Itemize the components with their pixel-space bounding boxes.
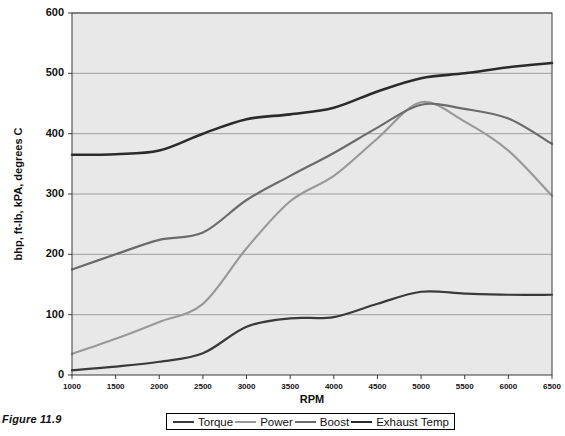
y-tick-label: 0 bbox=[58, 368, 64, 380]
y-tick-label: 300 bbox=[46, 187, 64, 199]
legend-label: Exhaust Temp bbox=[376, 416, 449, 428]
chart-figure: 0100200300400500600 10001500200025003000… bbox=[0, 0, 565, 436]
y-tick-label: 200 bbox=[46, 247, 64, 259]
legend-label: Boost bbox=[320, 416, 349, 428]
y-tick-label: 400 bbox=[46, 127, 64, 139]
y-tick-label: 500 bbox=[46, 66, 64, 78]
chart-svg: 0100200300400500600 10001500200025003000… bbox=[0, 0, 565, 436]
figure-caption: Figure 11.9 bbox=[2, 413, 61, 425]
x-tick-label: 5000 bbox=[412, 382, 430, 391]
chart-legend: TorquePowerBoostExhaust Temp bbox=[166, 413, 455, 430]
x-tick-label: 1500 bbox=[107, 382, 125, 391]
legend-line-swatch bbox=[295, 421, 316, 423]
x-tick-label: 5500 bbox=[456, 382, 474, 391]
y-tick-label: 600 bbox=[46, 6, 64, 18]
x-tick-label: 3500 bbox=[281, 382, 299, 391]
x-tick-label: 2000 bbox=[150, 382, 168, 391]
legend-label: Torque bbox=[198, 416, 233, 428]
x-tick-label: 2500 bbox=[194, 382, 212, 391]
legend-line-swatch bbox=[173, 421, 194, 423]
legend-item-power[interactable]: Power bbox=[233, 416, 293, 428]
legend-item-exhaust-temp[interactable]: Exhaust Temp bbox=[349, 416, 449, 428]
x-tick-label: 4000 bbox=[325, 382, 343, 391]
y-axis-title: bhp, ft-lb, kPA, degrees C bbox=[12, 127, 24, 260]
legend-line-swatch bbox=[351, 421, 372, 423]
legend-item-torque[interactable]: Torque bbox=[171, 416, 233, 428]
x-tick-label: 3000 bbox=[238, 382, 256, 391]
x-tick-label: 1000 bbox=[63, 382, 81, 391]
x-tick-label: 6500 bbox=[543, 382, 561, 391]
x-axis-ticks: 1000150020002500300035004000450050005500… bbox=[63, 375, 561, 391]
legend-item-boost[interactable]: Boost bbox=[293, 416, 349, 428]
legend-line-swatch bbox=[235, 421, 256, 423]
y-tick-label: 100 bbox=[46, 308, 64, 320]
x-tick-label: 4500 bbox=[369, 382, 387, 391]
x-axis-title: RPM bbox=[300, 393, 324, 405]
legend-label: Power bbox=[260, 416, 293, 428]
y-axis-ticks: 0100200300400500600 bbox=[46, 6, 72, 380]
x-tick-label: 6000 bbox=[499, 382, 517, 391]
